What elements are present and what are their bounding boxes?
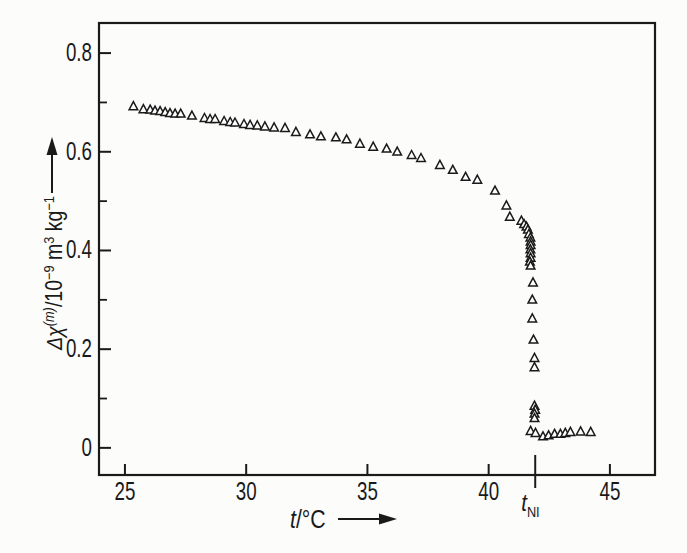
y-tick-label: 0 xyxy=(82,433,92,461)
data-point xyxy=(576,427,585,435)
x-tick-label: 30 xyxy=(236,477,257,505)
y-tick-label: 0.2 xyxy=(66,335,92,363)
x-axis-arrow-icon xyxy=(379,514,397,525)
y-axis-ticks: 00.20.40.60.8 xyxy=(66,38,111,461)
data-point xyxy=(528,314,537,322)
y-axis-arrow-icon xyxy=(47,137,58,155)
data-point xyxy=(253,121,262,129)
data-point xyxy=(342,135,351,143)
data-point xyxy=(306,130,315,138)
data-point xyxy=(332,133,341,141)
y-axis-label: Δχ(m)/10−9 m3 kg−1 xyxy=(40,196,67,351)
susceptibility-vs-temperature-chart: 2530354045 00.20.40.60.8 tNI t/°C Δχ(m)/… xyxy=(0,0,687,553)
data-point xyxy=(188,111,197,119)
y-tick-label: 0.4 xyxy=(66,236,92,264)
data-point xyxy=(529,335,538,343)
data-point xyxy=(369,142,378,150)
plot-border xyxy=(99,23,655,475)
data-point xyxy=(261,122,270,130)
x-axis-label-group: t/°C xyxy=(290,504,397,534)
x-tick-label: 40 xyxy=(478,477,499,505)
data-point xyxy=(382,144,391,152)
data-point xyxy=(317,132,326,140)
data-point xyxy=(393,147,402,155)
data-point xyxy=(530,353,539,361)
data-point xyxy=(129,102,138,110)
data-point xyxy=(528,295,537,303)
data-point xyxy=(506,212,515,220)
data-point xyxy=(417,154,426,162)
data-point xyxy=(586,427,595,435)
data-point xyxy=(436,160,445,168)
x-axis-label: t/°C xyxy=(290,504,326,534)
plot-frame xyxy=(99,23,655,475)
data-point xyxy=(449,165,458,173)
data-point xyxy=(461,172,470,180)
y-tick-label: 0.6 xyxy=(66,137,92,165)
data-point xyxy=(407,151,416,159)
y-axis-label-group: Δχ(m)/10−9 m3 kg−1 xyxy=(40,137,67,351)
data-point xyxy=(281,123,290,131)
data-point xyxy=(292,127,301,135)
figure-container: 2530354045 00.20.40.60.8 tNI t/°C Δχ(m)/… xyxy=(0,0,687,553)
x-axis-ticks: 2530354045 xyxy=(115,464,621,506)
data-point xyxy=(502,201,511,209)
x-tick-label: 35 xyxy=(357,477,378,505)
data-point xyxy=(270,123,279,131)
x-tick-label: 45 xyxy=(599,477,620,505)
transition-label: tNI xyxy=(521,489,539,520)
y-tick-label: 0.8 xyxy=(66,38,92,66)
data-points xyxy=(129,102,595,440)
transition-annotation: tNI xyxy=(521,455,539,520)
data-point xyxy=(473,175,482,183)
x-tick-label: 25 xyxy=(115,477,136,505)
data-point xyxy=(356,139,365,147)
data-point xyxy=(530,363,539,371)
data-point xyxy=(529,278,538,286)
data-point xyxy=(491,186,500,194)
